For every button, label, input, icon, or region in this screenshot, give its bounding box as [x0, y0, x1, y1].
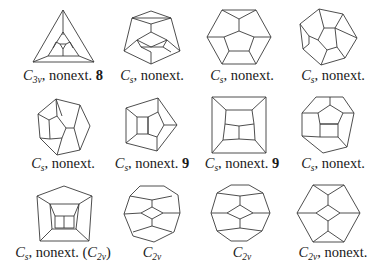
label-number: 8 — [96, 67, 103, 83]
symmetry-symbol: C — [299, 244, 309, 260]
symmetry-subscript: 2v — [242, 252, 251, 262]
label-suffix: , nonext. — [45, 155, 95, 171]
panel-label-4: Cs, nonext. — [301, 68, 365, 83]
graph-panel-10 — [124, 186, 180, 242]
label-suffix: , nonext. — [134, 67, 184, 83]
panel-label-1: C3v, nonext. 8 — [23, 68, 103, 83]
label-suffix: , nonext. ( — [29, 244, 88, 260]
symmetry-symbol: C — [205, 155, 215, 171]
graph-panel-9 — [37, 186, 92, 241]
symmetry-subscript: 2v — [308, 252, 317, 262]
graph-panel-7 — [212, 97, 266, 153]
symmetry-symbol: C — [31, 155, 41, 171]
panel-label-2: Cs, nonext. — [120, 68, 184, 83]
label-suffix: , nonext. — [42, 67, 92, 83]
symmetry-symbol: C — [143, 244, 153, 260]
symmetry-symbol: C — [23, 67, 33, 83]
symmetry-symbol: C — [301, 67, 311, 83]
symmetry-subscript: 3v — [33, 75, 42, 85]
panel-label-6: Cs, nonext. 9 — [115, 156, 190, 171]
paren-close: ) — [106, 244, 111, 260]
panel-label-11: C2v — [233, 245, 252, 260]
graph-drawings — [0, 0, 377, 272]
panel-label-5: Cs, nonext. — [31, 156, 95, 171]
symmetry-symbol: C — [210, 67, 220, 83]
panel-label-8: Cs, nonext. — [301, 156, 365, 171]
symmetry-subscript: 2v — [152, 252, 161, 262]
graph-panel-3 — [207, 10, 271, 64]
label-suffix: , nonext. — [315, 155, 365, 171]
graph-panel-12 — [297, 185, 360, 242]
graph-panel-4 — [300, 9, 357, 65]
panel-label-10: C2v — [143, 245, 162, 260]
panel-label-9: Cs, nonext. (C2v) — [15, 245, 111, 260]
graph-panel-2 — [124, 11, 180, 64]
label-number: 9 — [272, 155, 279, 171]
symmetry-symbol: C — [120, 67, 130, 83]
graph-panel-11 — [211, 185, 270, 241]
label-suffix: , nonext. — [315, 67, 365, 83]
panel-label-3: Cs, nonext. — [210, 68, 274, 83]
graph-panel-1 — [33, 10, 94, 62]
symmetry-symbol: C — [15, 244, 25, 260]
graph-panel-6 — [126, 98, 177, 151]
label-suffix: , nonext. — [317, 244, 367, 260]
symmetry-symbol: C — [233, 244, 243, 260]
alt-symmetry-subscript: 2v — [97, 252, 106, 262]
symmetry-symbol: C — [115, 155, 125, 171]
panel-label-12: C2v, nonext. — [299, 245, 368, 260]
label-number: 9 — [182, 155, 189, 171]
graph-panel-5 — [38, 99, 90, 155]
panel-label-7: Cs, nonext. 9 — [205, 156, 280, 171]
label-suffix: , nonext. — [224, 67, 274, 83]
label-suffix: , nonext. — [128, 155, 178, 171]
label-suffix: , nonext. — [218, 155, 268, 171]
alt-symmetry-symbol: C — [87, 244, 97, 260]
graph-panel-8 — [302, 97, 354, 153]
symmetry-symbol: C — [301, 155, 311, 171]
